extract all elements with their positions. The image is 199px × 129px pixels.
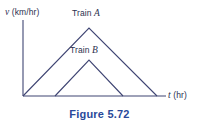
train-b-label-text: Train bbox=[70, 45, 90, 55]
train-a-curve bbox=[23, 28, 157, 96]
train-a-label-text: Train bbox=[72, 8, 92, 18]
x-axis-label: t (hr) bbox=[168, 91, 187, 101]
y-axis-label: v (km/hr) bbox=[5, 8, 39, 18]
figure-container: v (km/hr) t (hr) Train A Train B Figure … bbox=[0, 0, 199, 129]
y-axis-units: (km/hr) bbox=[12, 7, 40, 17]
train-b-label: Train B bbox=[70, 46, 98, 56]
train-b-curve bbox=[55, 60, 123, 96]
x-axis-units: (hr) bbox=[173, 90, 187, 100]
y-axis-symbol: v bbox=[5, 7, 9, 17]
figure-caption: Figure 5.72 bbox=[0, 108, 199, 120]
train-a-label: Train A bbox=[72, 9, 100, 19]
train-b-label-symbol: B bbox=[92, 45, 98, 55]
train-a-label-symbol: A bbox=[94, 8, 100, 18]
x-axis-symbol: t bbox=[168, 90, 171, 100]
